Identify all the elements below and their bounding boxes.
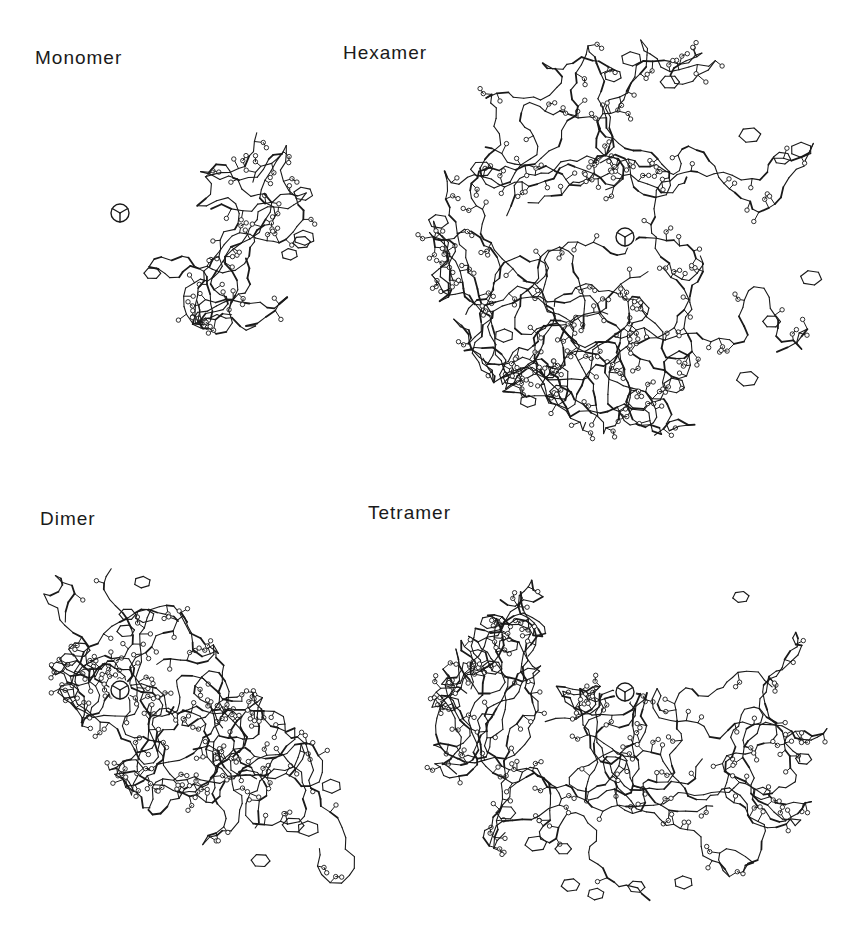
threefold-axis-icon — [614, 681, 636, 703]
threefold-axis-icon — [109, 202, 131, 224]
threefold-axis-icon — [109, 679, 131, 701]
molecule-monomer — [144, 133, 317, 336]
molecule-dimer — [44, 569, 355, 883]
molecule-tetramer — [425, 580, 827, 900]
molecular-structure-drawing — [0, 0, 865, 929]
threefold-axis-icon — [614, 226, 636, 248]
